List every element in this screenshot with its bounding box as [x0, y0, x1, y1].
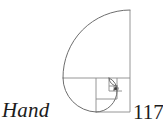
spiral-arcs: [63, 10, 130, 112]
arc-2: [63, 78, 96, 112]
square-2-edges: [96, 78, 130, 112]
spiral-inner-block: [114, 87, 116, 89]
innermost-square-fill: [114, 87, 116, 89]
arc-3: [96, 91, 117, 112]
arc-1: [63, 10, 130, 78]
spiral-squares: [63, 10, 130, 112]
page-fragment: Hand 117: [0, 0, 163, 137]
square-1-edges: [63, 10, 130, 112]
page-number: 117: [133, 100, 163, 124]
caption-text: Hand: [2, 98, 49, 122]
